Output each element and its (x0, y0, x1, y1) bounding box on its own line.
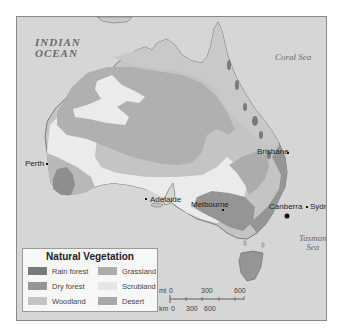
scale-mi-tick: 300 (201, 287, 213, 294)
scale-km-tick: 300 (186, 305, 198, 312)
coral-sea-label: Coral Sea (275, 53, 311, 62)
dry-forest-swatch (28, 282, 47, 290)
legend-item-woodland: Woodland (28, 296, 86, 306)
rain-forest-patch (227, 60, 231, 70)
legend: Natural Vegetation Rain forest Dry fores… (22, 248, 158, 312)
rain-forest-swatch (28, 267, 47, 275)
legend-label: Grassland (122, 267, 156, 276)
scale-mi-tick: 0 (169, 287, 173, 294)
indian-ocean-label: INDIAN OCEAN (35, 37, 81, 59)
legend-label: Dry forest (52, 282, 85, 291)
melbourne-marker-icon (222, 209, 224, 211)
city-label-perth: Perth (25, 160, 44, 168)
rain-forest-patch (259, 131, 263, 139)
legend-item-dry-forest: Dry forest (28, 281, 85, 291)
city-label-adelaide: Adelaide (150, 196, 181, 204)
legend-item-rain-forest: Rain forest (28, 266, 88, 276)
small-island (262, 243, 264, 248)
city-label-sydney: Sydney (310, 203, 327, 211)
legend-label: Rain forest (52, 267, 88, 276)
legend-title: Natural Vegetation (23, 251, 157, 262)
legend-item-desert: Desert (98, 296, 144, 306)
city-label-brisbane: Brisbane (257, 148, 289, 156)
scale-km-tick: 600 (204, 305, 216, 312)
adelaide-marker-icon (145, 198, 147, 200)
legend-item-grassland: Grassland (98, 266, 156, 276)
legend-label: Desert (122, 297, 144, 306)
tasman-line2: Sea (299, 243, 327, 252)
legend-label: Woodland (52, 297, 86, 306)
legend-label: Scrubland (122, 282, 156, 291)
scrubland-swatch (98, 282, 117, 290)
woodland-swatch (28, 297, 47, 305)
scale-bar: mi 0 300 600 km 0 300 600 (159, 287, 249, 315)
scale-mi-label: mi (159, 287, 166, 294)
desert-swatch (98, 297, 117, 305)
indian-ocean-line2: OCEAN (35, 48, 81, 59)
scale-km-label: km (159, 305, 168, 312)
canberra-capital-marker-icon (285, 214, 290, 219)
scale-mi-tick: 600 (234, 287, 246, 294)
city-label-canberra: Canberra (269, 203, 302, 211)
rain-forest-patch (235, 80, 239, 90)
legend-item-scrubland: Scrubland (98, 281, 156, 291)
rain-forest-patch (243, 103, 247, 111)
city-label-melbourne: Melbourne (191, 201, 229, 209)
small-island (244, 241, 246, 246)
perth-marker-icon (46, 163, 48, 165)
scale-bar-line (169, 295, 245, 303)
rain-forest-patch (252, 116, 258, 126)
grassland-swatch (98, 267, 117, 275)
scale-km-tick: 0 (171, 305, 175, 312)
sydney-marker-icon (306, 206, 308, 208)
tasman-sea-label: Tasman Sea (299, 234, 327, 253)
